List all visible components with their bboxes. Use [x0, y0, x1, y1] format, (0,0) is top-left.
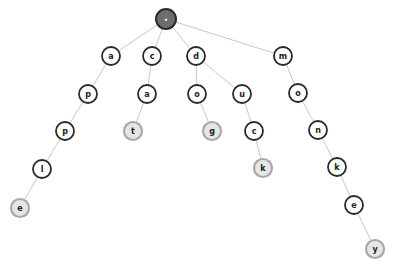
trie-node-a: a [102, 47, 120, 65]
node-label: n [315, 126, 321, 135]
trie-node-do: o [188, 85, 206, 103]
node-label: t [131, 127, 135, 136]
node-label: k [260, 164, 266, 173]
node-label: d [193, 52, 199, 61]
node-label: l [41, 165, 44, 174]
node-label: m [279, 52, 287, 61]
node-label: e [351, 201, 357, 210]
trie-node-mo: o [289, 84, 307, 102]
trie-node-c: c [143, 47, 161, 65]
trie-node-ca: a [138, 85, 156, 103]
node-label: a [108, 52, 113, 61]
node-label: p [62, 127, 68, 136]
trie-leaf-node-duck: k [254, 159, 272, 177]
node-label: c [150, 52, 155, 61]
trie-leaf-node-apple: e [11, 199, 29, 217]
node-label: k [334, 163, 340, 172]
trie-diagram: •acdmpaouoptgcnlkkeey [0, 0, 406, 276]
trie-node-monk: k [328, 158, 346, 176]
node-label: • [164, 16, 168, 23]
edge-root-m [166, 19, 283, 56]
trie-node-mon: n [309, 121, 327, 139]
trie-node-appl: l [33, 160, 51, 178]
node-label: u [239, 90, 245, 99]
node-label: o [295, 89, 301, 98]
node-label: g [209, 127, 215, 136]
trie-node-d: d [187, 47, 205, 65]
trie-node-app: p [56, 122, 74, 140]
node-label: o [194, 90, 200, 99]
trie-node-duc: c [245, 122, 263, 140]
trie-node-du: u [233, 85, 251, 103]
trie-node-ap: p [79, 85, 97, 103]
trie-leaf-node-cat: t [124, 122, 142, 140]
node-label: y [372, 245, 378, 254]
node-label: c [252, 127, 257, 136]
node-label: p [85, 90, 91, 99]
trie-root-node: • [156, 9, 176, 29]
trie-node-monke: e [345, 196, 363, 214]
node-label: e [17, 204, 23, 213]
trie-leaf-node-monkey: y [366, 240, 384, 258]
trie-leaf-node-dog: g [203, 122, 221, 140]
node-label: a [144, 90, 149, 99]
trie-node-m: m [274, 47, 292, 65]
nodes-layer: •acdmpaouoptgcnlkkeey [11, 9, 384, 258]
